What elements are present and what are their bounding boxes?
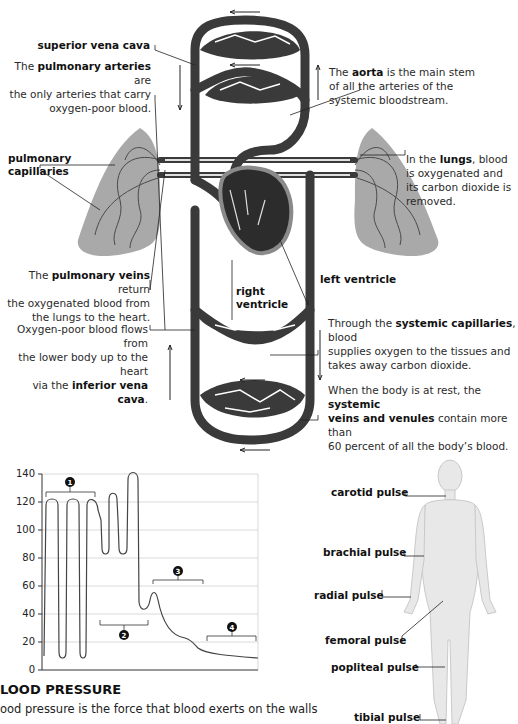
label-popliteal-pulse: popliteal pulse xyxy=(331,661,419,674)
label-radial-pulse: radial pulse xyxy=(314,589,384,602)
label-brachial-pulse: brachial pulse xyxy=(323,546,406,559)
label-femoral-pulse: femoral pulse xyxy=(325,634,406,647)
human-body-figure xyxy=(0,0,518,724)
label-tibial-pulse: tibial pulse xyxy=(354,711,420,724)
label-carotid-pulse: carotid pulse xyxy=(331,486,408,499)
